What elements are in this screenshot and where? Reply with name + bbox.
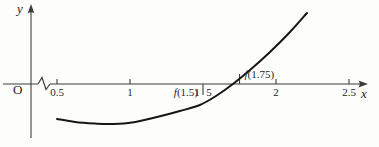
x-tick-label-2.5: 2.5 (342, 86, 356, 98)
axis-break-icon (38, 78, 50, 90)
origin-label: O (13, 83, 22, 96)
annotation-0: f(1.5) (174, 86, 198, 98)
x-tick-label-2: 2 (273, 86, 279, 98)
function-graph: y O x 0.511522.5f(1.5)f(1.75) (0, 0, 379, 147)
x-tick-label-1: 1 (127, 86, 133, 98)
x-tick-label-1.5-part2: 5 (206, 86, 212, 98)
x-tick-label-0.5: 0.5 (50, 86, 64, 98)
y-axis-label: y (17, 2, 23, 15)
x-axis-label: x (361, 87, 367, 100)
annotation-1: f(1.75) (245, 68, 275, 80)
y-axis-arrow-icon (28, 4, 35, 14)
plot-canvas (0, 0, 379, 147)
